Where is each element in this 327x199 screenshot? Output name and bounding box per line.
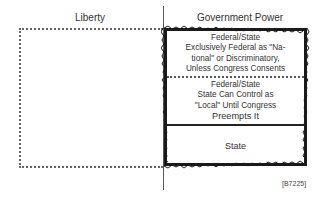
section-line: State Can Control as xyxy=(167,90,304,100)
section-line: "Local" Until Congress xyxy=(167,101,304,111)
exclusively-federal-section: Federal/State Exclusively Federal as "Na… xyxy=(167,33,304,76)
liberty-region xyxy=(19,28,163,168)
figure-caption: [B7225] xyxy=(282,180,306,187)
section-line: Exclusively Federal as "Na- xyxy=(167,43,304,53)
section-title: Federal/State xyxy=(167,80,304,90)
section-line: Preempts It xyxy=(167,111,304,121)
solid-separator xyxy=(167,124,304,126)
section-title: State xyxy=(167,141,304,151)
government-power-header: Government Power xyxy=(180,12,300,23)
government-power-region: Federal/State Exclusively Federal as "Na… xyxy=(164,28,307,166)
state-control-section: Federal/State State Can Control as "Loca… xyxy=(167,80,304,124)
liberty-header: Liberty xyxy=(55,12,125,23)
dotted-separator xyxy=(167,76,304,78)
section-line: Unless Congress Consents xyxy=(167,64,304,74)
state-section: State xyxy=(167,141,304,151)
section-title: Federal/State xyxy=(167,33,304,43)
section-line: tional" or Discriminatory, xyxy=(167,54,304,64)
